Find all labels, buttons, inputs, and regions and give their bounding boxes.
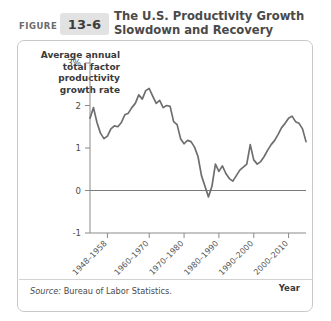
- figure-title-line-2: Slowdown and Recovery: [114, 23, 328, 37]
- data-series-line: [90, 89, 306, 197]
- x-tick-label: 1948–1958: [71, 239, 109, 277]
- source-divider: [19, 279, 313, 280]
- line-chart: 3%210-11948–19581960–19701970–19801980–1…: [18, 41, 314, 313]
- figure-header: FIGURE 13-6 The U.S. Productivity Growth…: [0, 4, 331, 38]
- figure-title-line-1: The U.S. Productivity Growth: [114, 9, 328, 23]
- figure-title: The U.S. Productivity Growth Slowdown an…: [114, 9, 328, 37]
- figure-number: 13-6: [60, 17, 109, 32]
- source-text: Bureau of Labor Statistics.: [64, 286, 172, 296]
- y-tick-label: 0: [76, 186, 81, 196]
- y-tick-label: -1: [72, 228, 81, 238]
- x-tick-label: 1970–1980: [147, 239, 185, 277]
- figure-label: FIGURE: [19, 21, 57, 31]
- source-prefix: Source:: [30, 286, 61, 296]
- x-axis-title: Year: [278, 283, 301, 293]
- x-tick-label: 1990–2000: [217, 239, 255, 277]
- x-tick-label: 2000–2010: [252, 239, 290, 277]
- source-note: Source: Bureau of Labor Statistics.: [30, 286, 172, 296]
- figure-panel: Average annual total factor productivity…: [17, 40, 313, 312]
- x-tick-label: 1960–1970: [113, 239, 151, 277]
- y-tick-label: 2: [76, 101, 81, 111]
- x-tick-label: 1980–1990: [182, 239, 220, 277]
- y-tick-label: 1: [76, 143, 81, 153]
- y-tick-label: 3%: [67, 58, 81, 68]
